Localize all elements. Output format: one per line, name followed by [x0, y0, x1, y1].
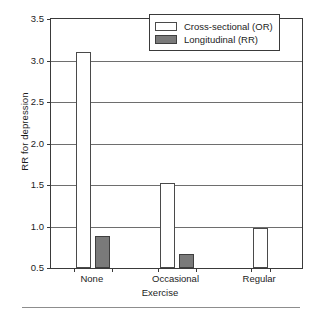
x-tick-mark: [196, 268, 197, 272]
legend-swatch-cross-sectional: [155, 22, 177, 31]
y-tick-mark: [47, 102, 51, 103]
bar-occasional-longitudinal: [179, 254, 194, 268]
bar-regular-cross-sectional: [253, 228, 268, 268]
x-tick-label-none: None: [80, 273, 103, 284]
x-axis-title: Exercise: [0, 287, 320, 298]
x-tick-mark: [251, 268, 252, 272]
plot-area: [50, 18, 303, 269]
bar-occasional-cross-sectional: [160, 183, 175, 268]
y-tick-label: 2.5: [0, 96, 44, 107]
y-tick-mark: [47, 144, 51, 145]
figure: RR for depression Exercise Cross-section…: [0, 0, 320, 315]
legend-swatch-longitudinal: [155, 35, 177, 44]
y-tick-label: 0.5: [0, 262, 44, 273]
y-tick-label: 3.0: [0, 54, 44, 65]
x-tick-mark: [112, 268, 113, 272]
y-tick-label: 1.5: [0, 179, 44, 190]
x-tick-mark: [74, 268, 75, 272]
y-tick-label: 1.0: [0, 220, 44, 231]
y-tick-mark: [47, 185, 51, 186]
legend-item: Longitudinal (RR): [155, 33, 273, 45]
x-tick-label-occasional: Occasional: [152, 273, 199, 284]
bar-none-longitudinal: [95, 236, 110, 268]
legend: Cross-sectional (OR) Longitudinal (RR): [149, 14, 280, 51]
y-tick-label: 3.5: [0, 13, 44, 24]
x-tick-mark: [158, 268, 159, 272]
x-tick-label-regular: Regular: [243, 273, 276, 284]
y-tick-label: 2.0: [0, 137, 44, 148]
y-tick-mark: [47, 19, 51, 20]
bar-none-cross-sectional: [76, 52, 91, 268]
x-tick-mark: [270, 268, 271, 272]
y-tick-mark: [47, 268, 51, 269]
legend-item: Cross-sectional (OR): [155, 20, 273, 32]
y-tick-mark: [47, 61, 51, 62]
legend-label-cross-sectional: Cross-sectional (OR): [184, 21, 273, 32]
y-tick-mark: [47, 227, 51, 228]
footer-divider: [22, 307, 300, 308]
legend-label-longitudinal: Longitudinal (RR): [184, 34, 258, 45]
